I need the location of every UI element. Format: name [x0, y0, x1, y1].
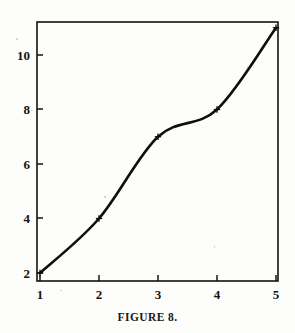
- y-tick-label-8: 8: [24, 102, 31, 117]
- line-chart-plot: 10 8 6 4 2 1 2 3 4 5: [0, 0, 295, 305]
- y-tick-label-2: 2: [24, 266, 31, 281]
- y-tick-label-10: 10: [17, 48, 30, 63]
- data-point-markers: [37, 25, 279, 277]
- x-axis-ticks: [40, 275, 276, 281]
- x-tick-label-3: 3: [155, 287, 162, 302]
- chart-figure: 10 8 6 4 2 1 2 3 4 5: [0, 0, 295, 305]
- x-tick-label-1: 1: [37, 287, 44, 302]
- y-tick-label-6: 6: [24, 157, 31, 172]
- y-axis-ticks: [37, 55, 43, 273]
- plot-frame: [37, 22, 278, 281]
- data-curve: [40, 28, 276, 273]
- y-tick-label-4: 4: [24, 211, 31, 226]
- figure-caption: FIGURE 8.: [0, 311, 295, 323]
- y-axis-tick-labels: 10 8 6 4 2: [17, 48, 31, 281]
- figure-page: 10 8 6 4 2 1 2 3 4 5 FIGURE 8.: [0, 0, 295, 333]
- x-tick-label-4: 4: [214, 287, 221, 302]
- x-tick-label-2: 2: [96, 287, 103, 302]
- x-tick-label-5: 5: [273, 287, 280, 302]
- x-axis-tick-labels: 1 2 3 4 5: [37, 287, 280, 302]
